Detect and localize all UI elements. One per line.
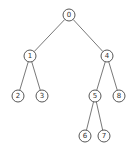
tree-node-8: 8 — [113, 90, 125, 102]
edge-4-8 — [109, 62, 118, 91]
tree-node-4: 4 — [101, 50, 113, 62]
tree-node-1: 1 — [24, 50, 36, 62]
node-label: 6 — [83, 132, 88, 140]
edge-4-5 — [97, 62, 106, 91]
edge-1-2 — [20, 62, 29, 91]
tree-node-6: 6 — [79, 130, 91, 142]
node-label: 4 — [105, 52, 110, 60]
tree-node-3: 3 — [36, 90, 48, 102]
node-label: 1 — [28, 52, 32, 60]
node-label: 8 — [117, 92, 121, 100]
node-label: 7 — [102, 132, 106, 140]
tree-nodes: 014235867 — [12, 9, 125, 142]
tree-edges — [20, 19, 118, 130]
node-label: 0 — [67, 11, 71, 19]
node-label: 5 — [93, 92, 97, 100]
tree-diagram: 014235867 — [0, 0, 134, 154]
edge-5-7 — [96, 102, 102, 130]
edge-5-6 — [86, 102, 93, 130]
tree-node-5: 5 — [89, 90, 101, 102]
tree-node-0: 0 — [63, 9, 75, 21]
tree-node-2: 2 — [12, 90, 24, 102]
edge-1-3 — [32, 62, 41, 91]
node-label: 2 — [16, 92, 20, 100]
node-label: 3 — [40, 92, 44, 100]
tree-node-7: 7 — [98, 130, 110, 142]
edge-0-1 — [34, 19, 65, 51]
edge-0-4 — [73, 19, 103, 51]
